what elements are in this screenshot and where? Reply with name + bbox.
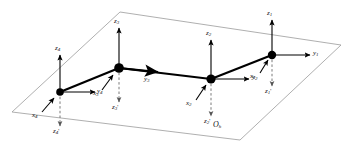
frame-3-y-label: y3 xyxy=(144,76,150,83)
frame-4-z-prime-label: z4' xyxy=(53,128,59,135)
figure-canvas: z1 y1 x1 z1' z2 y2 x2 z2' z3 y3 x3 z3' z… xyxy=(0,0,349,151)
frame-1-y-label: y1 xyxy=(313,50,319,57)
frame-2-y-label: y2 xyxy=(252,74,258,81)
frame-4-z-label: z4 xyxy=(55,45,60,52)
joint-node-2 xyxy=(206,74,215,83)
frame-1-z-label: z1 xyxy=(267,10,272,17)
frame-2-z-label: z2 xyxy=(206,30,211,37)
frame-2-x-axis xyxy=(196,85,206,100)
frame-4-x-axis xyxy=(42,98,54,112)
frame-3-z-prime-label: z3' xyxy=(112,104,118,111)
frame-1-z-prime-label: z1' xyxy=(265,88,271,95)
frame-4-x-label: x4 xyxy=(32,112,38,119)
frame-1-axes xyxy=(260,20,310,86)
frame-4-axes xyxy=(42,55,95,126)
frame-3-x-axis xyxy=(102,75,113,90)
frame-3-axes xyxy=(102,28,158,102)
frame-4-y-label: y4 xyxy=(97,88,103,95)
ground-plane xyxy=(12,12,341,140)
joint-node-4 xyxy=(56,88,64,96)
joint-node-1 xyxy=(268,51,276,59)
frame-2-x-label: x2 xyxy=(186,100,192,107)
chain-links xyxy=(60,55,272,92)
frame-3-z-label: z3 xyxy=(114,18,119,25)
joint-node-3 xyxy=(114,63,124,73)
frame-2-z-prime-label: z2' xyxy=(204,118,210,125)
frame-1-x-axis xyxy=(260,60,268,73)
ground-plane-label: Oh xyxy=(213,121,221,129)
